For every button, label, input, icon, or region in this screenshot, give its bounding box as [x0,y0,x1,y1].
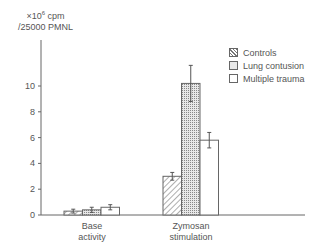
y-tick-label: 0 [30,210,35,220]
bar-lung-contusion [182,83,201,215]
bar-controls [163,176,182,215]
legend-item-controls: Controls [229,46,305,59]
bar-chart: 0246810 [0,0,321,248]
legend-label: Controls [243,48,277,58]
x-category-base-activity: Base activity [52,221,132,243]
y-tick-label: 8 [30,107,35,117]
legend-label: Lung contusion [243,61,304,71]
legend-item-multiple-trauma: Multiple trauma [229,72,305,85]
legend: ControlsLung contusionMultiple trauma [229,46,305,85]
legend-item-lung-contusion: Lung contusion [229,59,305,72]
legend-swatch-icon [229,74,238,83]
bar-multiple-trauma [200,140,219,215]
y-tick-label: 10 [25,81,35,91]
y-tick-label: 6 [30,133,35,143]
legend-label: Multiple trauma [243,74,305,84]
legend-swatch-icon [229,48,238,57]
x-category-zymosan-stimulation: Zymosan stimulation [151,221,231,243]
y-tick-label: 4 [30,158,35,168]
y-tick-label: 2 [30,184,35,194]
legend-swatch-icon [229,61,238,70]
